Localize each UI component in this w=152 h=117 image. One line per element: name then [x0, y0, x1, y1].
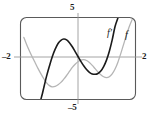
axis-label-right: 2 — [142, 52, 146, 61]
curve-label-f: f — [125, 30, 128, 40]
axis-label-bottom: –5 — [68, 103, 77, 112]
axis-label-left: –2 — [2, 52, 11, 61]
curve-label-f-prime: f′ — [107, 28, 112, 38]
axis-label-top: 5 — [70, 3, 74, 12]
calculator-screen-svg — [0, 0, 152, 117]
